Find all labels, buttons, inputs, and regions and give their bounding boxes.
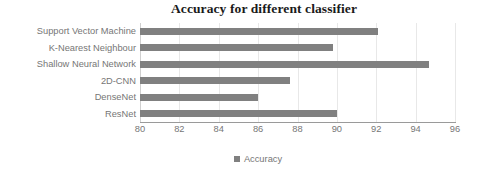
x-tick-label: 84: [214, 124, 224, 134]
gridline-96: [455, 23, 456, 122]
y-axis-label: K-Nearest Neighbour: [2, 40, 136, 57]
x-axis-line: [140, 122, 456, 123]
chart-title: Accuracy for different classifier: [0, 1, 480, 17]
bar[interactable]: [140, 44, 333, 51]
y-axis-label: ResNet: [2, 106, 136, 123]
bar[interactable]: [140, 94, 258, 101]
y-axis-label: Support Vector Machine: [2, 23, 136, 40]
bar[interactable]: [140, 77, 290, 84]
x-tick-label: 80: [135, 124, 145, 134]
y-axis-label: DenseNet: [2, 89, 136, 106]
x-axis-tick-labels: 808284868890929496: [140, 124, 455, 138]
bar-row: [140, 73, 455, 90]
bar-row: [140, 89, 455, 106]
bar[interactable]: [140, 61, 429, 68]
x-tick-label: 88: [292, 124, 302, 134]
plot-area: [140, 23, 455, 122]
bar-chart: Accuracy for different classifier Suppor…: [0, 0, 480, 170]
bar-row: [140, 40, 455, 57]
y-axis-label: Shallow Neural Network: [2, 56, 136, 73]
bar-row: [140, 56, 455, 73]
x-tick-label: 86: [253, 124, 263, 134]
y-axis-label: 2D-CNN: [2, 73, 136, 90]
y-axis-category-labels: Support Vector MachineK-Nearest Neighbou…: [0, 23, 136, 122]
x-tick-label: 92: [371, 124, 381, 134]
bar[interactable]: [140, 110, 337, 117]
legend-label: Accuracy: [244, 154, 282, 164]
bar-row: [140, 23, 455, 40]
bar-row: [140, 106, 455, 123]
bar[interactable]: [140, 28, 378, 35]
x-tick-label: 90: [332, 124, 342, 134]
x-tick-label: 96: [450, 124, 460, 134]
x-tick-label: 94: [410, 124, 420, 134]
legend-swatch-icon: [234, 156, 241, 163]
legend-entry-accuracy: Accuracy: [234, 154, 282, 164]
chart-legend: Accuracy: [0, 148, 480, 166]
x-tick-label: 82: [174, 124, 184, 134]
